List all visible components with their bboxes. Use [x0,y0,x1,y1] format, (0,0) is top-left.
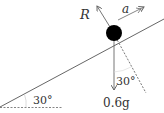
incline-angle-label: 30° [33,94,53,107]
acceleration-label: a [122,2,129,16]
reaction-arrow [97,6,110,27]
weight-angle-arc [114,67,131,72]
ball [106,25,122,41]
weight-label: 0.6g [103,96,130,110]
inclined-plane [0,19,164,107]
reaction-label: R [79,7,90,22]
incline-diagram: R a 30° 0.6g 30° [0,0,164,113]
incline-angle-arc [25,95,27,108]
weight-angle-label: 30° [116,75,136,88]
